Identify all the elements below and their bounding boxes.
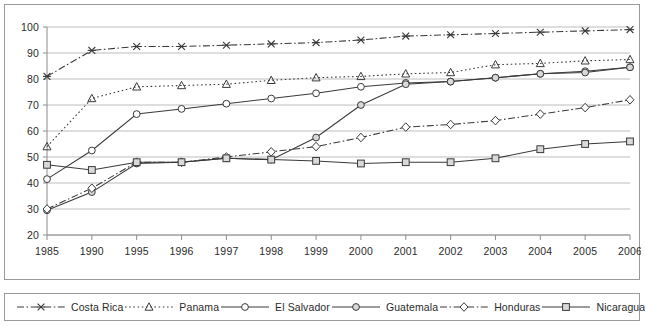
line-chart-plot: 2030405060708090100198519901995199619971… — [5, 5, 641, 281]
x-axis-label-2006: 2006 — [618, 245, 641, 257]
x-axis-label-2003: 2003 — [483, 245, 507, 257]
y-axis-label-50: 50 — [27, 151, 39, 163]
data-point-5-5 — [268, 156, 275, 163]
legend-swatch-diamond-open-icon — [438, 301, 490, 313]
x-axis-label-2000: 2000 — [349, 245, 373, 257]
y-axis-label-70: 70 — [27, 99, 39, 111]
x-axis-label-1985: 1985 — [35, 245, 59, 257]
data-point-2-7 — [358, 83, 365, 90]
legend-swatch-x-icon — [15, 301, 67, 313]
data-point-3-13 — [627, 64, 634, 71]
legend-swatch-circle-filled-icon — [330, 301, 382, 313]
data-point-5-7 — [358, 160, 365, 167]
legend-swatch-square-icon — [540, 301, 592, 313]
axis-labels-group: 2030405060708090100198519901995199619971… — [21, 21, 641, 258]
data-point-3-7 — [358, 102, 365, 109]
series-honduras — [43, 96, 634, 214]
x-axis-label-1990: 1990 — [80, 245, 104, 257]
data-point-4-13 — [626, 96, 634, 105]
series-group — [43, 26, 634, 214]
data-point-1-8 — [402, 70, 410, 77]
legend-item-el-salvador[interactable]: El Salvador — [219, 301, 330, 313]
data-point-2-0 — [44, 176, 51, 183]
y-axis-label-100: 100 — [21, 21, 39, 33]
data-point-5-6 — [313, 158, 320, 165]
data-point-5-1 — [88, 167, 95, 174]
data-point-5-0 — [44, 161, 51, 168]
data-point-2-2 — [133, 111, 140, 118]
data-point-5-10 — [492, 155, 499, 162]
y-axis-label-20: 20 — [27, 229, 39, 241]
data-point-5-9 — [447, 159, 454, 166]
data-point-5-3 — [178, 159, 185, 166]
y-axis-label-60: 60 — [27, 125, 39, 137]
data-point-4-9 — [447, 120, 455, 129]
data-point-5-8 — [402, 159, 409, 166]
data-point-4-8 — [402, 123, 410, 132]
data-point-2-6 — [313, 90, 320, 97]
legend-marker-circle-open-icon — [242, 304, 249, 311]
x-axis-label-1996: 1996 — [169, 245, 193, 257]
y-axis-label-40: 40 — [27, 177, 39, 189]
legend-item-guatemala[interactable]: Guatemala — [330, 301, 438, 313]
data-point-5-13 — [627, 138, 634, 145]
x-axis-label-2002: 2002 — [439, 245, 463, 257]
axis-group — [43, 27, 630, 240]
y-axis-label-90: 90 — [27, 47, 39, 59]
series-guatemala — [44, 64, 634, 214]
data-point-5-2 — [133, 159, 140, 166]
chart-frame: 2030405060708090100198519901995199619971… — [4, 4, 640, 280]
data-point-5-4 — [223, 155, 230, 162]
x-axis-label-2005: 2005 — [573, 245, 597, 257]
legend-label: Honduras — [494, 301, 540, 313]
data-point-4-7 — [357, 133, 365, 142]
legend-label: El Salvador — [275, 301, 330, 313]
legend-label: Guatemala — [386, 301, 438, 313]
legend-item-costa-rica[interactable]: Costa Rica — [15, 301, 123, 313]
series-line-3 — [47, 67, 630, 210]
data-point-4-11 — [536, 110, 544, 119]
data-point-2-4 — [223, 100, 230, 107]
x-axis-label-1999: 1999 — [304, 245, 328, 257]
series-nicaragua — [44, 138, 634, 173]
gridlines-group — [47, 27, 630, 235]
x-axis-label-1995: 1995 — [125, 245, 149, 257]
legend-label: Nicaragua — [596, 301, 645, 313]
data-point-4-10 — [491, 116, 499, 125]
chart-page: 2030405060708090100198519901995199619971… — [0, 0, 645, 326]
data-point-3-10 — [492, 74, 499, 81]
data-point-1-5 — [267, 76, 275, 83]
legend-swatch-triangle-icon — [123, 301, 175, 313]
legend-marker-square-icon — [563, 304, 570, 311]
x-axis-label-1998: 1998 — [259, 245, 283, 257]
legend-marker-diamond-open-icon — [460, 303, 468, 312]
legend-label: Panama — [179, 301, 219, 313]
legend-swatch-circle-open-icon — [219, 301, 271, 313]
data-point-5-11 — [537, 146, 544, 153]
legend-item-panama[interactable]: Panama — [123, 301, 219, 313]
data-point-3-8 — [402, 81, 409, 88]
legend-item-nicaragua[interactable]: Nicaragua — [540, 301, 645, 313]
legend-marker-circle-filled-icon — [352, 304, 359, 311]
chart-legend: Costa RicaPanamaEl SalvadorGuatemalaHond… — [4, 293, 640, 321]
data-point-3-6 — [313, 134, 320, 141]
data-point-1-12 — [581, 57, 589, 64]
data-point-1-13 — [626, 55, 634, 62]
data-point-3-9 — [447, 78, 454, 85]
data-point-4-5 — [267, 148, 275, 157]
data-point-5-12 — [582, 141, 589, 148]
data-point-2-5 — [268, 95, 275, 102]
y-axis-label-80: 80 — [27, 73, 39, 85]
legend-item-honduras[interactable]: Honduras — [438, 301, 540, 313]
data-point-3-12 — [582, 69, 589, 76]
data-point-2-3 — [178, 106, 185, 113]
y-axis-label-30: 30 — [27, 203, 39, 215]
x-axis-label-2001: 2001 — [394, 245, 418, 257]
x-axis-label-2004: 2004 — [528, 245, 552, 257]
data-point-2-1 — [88, 147, 95, 154]
x-axis-label-1997: 1997 — [214, 245, 238, 257]
legend-label: Costa Rica — [71, 301, 123, 313]
series-panama — [43, 55, 634, 150]
data-point-3-11 — [537, 70, 544, 77]
data-point-4-6 — [312, 142, 320, 151]
